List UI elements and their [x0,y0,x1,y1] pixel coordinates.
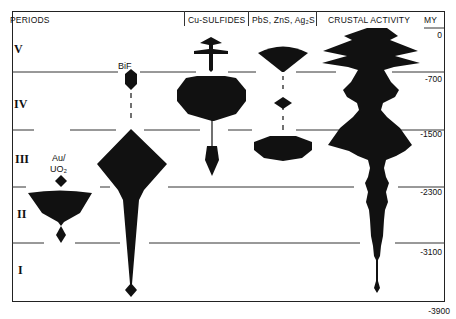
diagram-graphics [0,0,456,319]
pbs-zns-ags-shape [254,47,312,162]
bif-shape [97,69,167,297]
crustal-activity-shape [322,28,420,293]
au-uo2-shape [28,175,92,243]
cu-sulfides-shape [177,37,246,176]
